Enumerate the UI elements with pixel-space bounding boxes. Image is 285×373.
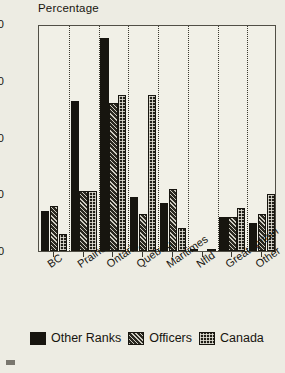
legend-item: Canada <box>199 332 264 345</box>
y-tick-label: 0 <box>0 245 4 257</box>
bar <box>59 234 67 251</box>
bar-group <box>188 26 218 251</box>
bar <box>50 206 58 251</box>
bar <box>71 101 79 251</box>
bar-group <box>69 26 99 251</box>
bar <box>228 217 236 251</box>
legend-swatch-icon <box>30 332 46 345</box>
legend-swatch-icon <box>199 332 215 345</box>
bar <box>139 214 147 251</box>
bar <box>219 217 227 251</box>
legend-item: Officers <box>128 332 192 345</box>
bar-group <box>158 26 188 251</box>
legend: Other RanksOfficersCanada <box>30 332 264 345</box>
bar <box>148 95 156 251</box>
legend-label: Other Ranks <box>51 332 121 345</box>
bar-group <box>39 26 69 251</box>
bar-group <box>247 26 277 251</box>
bar <box>100 38 108 251</box>
x-tick-label: BC <box>45 251 64 270</box>
bar-group <box>218 26 248 251</box>
bar-chart: Percentage 010203040 BCPrairiesOntarioQu… <box>0 0 285 373</box>
bar-group <box>99 26 129 251</box>
legend-item: Other Ranks <box>30 332 121 345</box>
legend-label: Officers <box>149 332 192 345</box>
scan-artifact <box>6 360 15 365</box>
bar <box>88 191 96 251</box>
y-tick-label: 30 <box>0 75 4 87</box>
bar <box>169 189 177 251</box>
y-tick-label: 40 <box>0 18 4 30</box>
bar <box>109 103 117 251</box>
bar <box>79 191 87 251</box>
chart-title: Percentage <box>38 2 99 14</box>
bar <box>41 211 49 251</box>
y-tick-label: 20 <box>0 132 4 144</box>
bar <box>118 95 126 251</box>
plot-area <box>38 25 276 252</box>
bar-group <box>128 26 158 251</box>
y-tick-label: 10 <box>0 188 4 200</box>
legend-label: Canada <box>220 332 264 345</box>
legend-swatch-icon <box>128 332 144 345</box>
